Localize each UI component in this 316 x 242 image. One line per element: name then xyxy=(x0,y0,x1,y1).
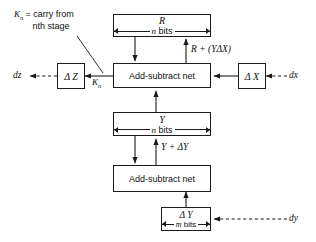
carry-annotation: Kn = carry from nth stage xyxy=(14,9,74,31)
carry-annotation-text1: = carry from xyxy=(26,9,74,19)
label-dy: dy xyxy=(289,213,298,224)
register-y-bits-row: n bits xyxy=(109,125,215,135)
box-delta-z-label: Δ Z xyxy=(64,71,78,82)
box-delta-z: Δ Z xyxy=(57,63,85,89)
bits-arrow-left-r xyxy=(114,31,150,32)
label-dx: dx xyxy=(289,70,298,81)
box-delta-y-bits: m bits xyxy=(176,220,196,229)
block-diagram-canvas: Kn = carry from nth stage R n bits R + (… xyxy=(0,0,316,242)
bits-arrow-left-dy xyxy=(162,224,174,225)
label-r-plus-ydx: R + (YΔX) xyxy=(191,44,231,55)
label-y-plus-dy: Y + ΔY xyxy=(161,142,188,153)
adder-top: Add-subtract net xyxy=(113,63,211,88)
carry-annotation-line2: nth stage xyxy=(14,21,74,31)
carry-annotation-line1: Kn = carry from xyxy=(14,9,74,21)
bits-arrow-left-y xyxy=(114,129,150,130)
box-delta-y-label: Δ Y xyxy=(179,210,192,220)
box-delta-y: Δ Y m bits xyxy=(161,207,211,231)
register-r: R n bits xyxy=(113,14,211,37)
box-delta-x: Δ X xyxy=(238,63,266,89)
box-delta-x-label: Δ X xyxy=(245,71,259,82)
register-y: Y n bits xyxy=(113,112,211,136)
register-y-bits: n bits xyxy=(152,125,173,135)
adder-top-label: Add-subtract net xyxy=(129,71,195,81)
register-r-bits-row: n bits xyxy=(109,26,215,36)
bits-arrow-right-dy xyxy=(198,224,210,225)
box-delta-y-bits-row: m bits xyxy=(159,220,213,229)
register-r-name: R xyxy=(159,15,165,26)
bits-arrow-right-r xyxy=(175,31,211,32)
label-dz: dz xyxy=(13,70,21,81)
register-r-bits: n bits xyxy=(152,26,173,36)
label-carry-kn: Kn xyxy=(92,77,101,89)
bits-arrow-right-y xyxy=(175,129,211,130)
register-y-name: Y xyxy=(159,114,165,125)
adder-bottom: Add-subtract net xyxy=(113,165,211,192)
adder-bottom-label: Add-subtract net xyxy=(129,174,195,184)
carry-annotation-subscript: n xyxy=(20,14,23,21)
